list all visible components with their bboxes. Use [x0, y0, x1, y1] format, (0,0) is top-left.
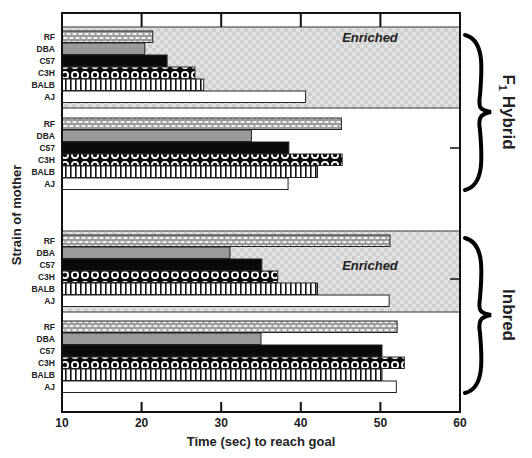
strain-label: C57: [39, 346, 55, 356]
bar-c3h: [62, 357, 404, 369]
bar-aj: [62, 381, 396, 393]
bar-c57: [62, 345, 382, 357]
bar-chart: RFDBAC57C3HBALBAJRFDBAC57C3HBALBAJRFDBAC…: [0, 0, 532, 458]
strain-label: BALB: [31, 370, 55, 380]
strain-label: RF: [44, 32, 55, 42]
bar-rf: [62, 321, 397, 333]
x-tick-label: 50: [374, 416, 388, 430]
strain-label: C3H: [38, 68, 55, 78]
bar-c3h: [62, 67, 195, 79]
strain-label: C3H: [38, 272, 55, 282]
x-tick-label: 10: [55, 416, 69, 430]
bar-rf: [62, 31, 153, 43]
brace-icon: [465, 35, 491, 190]
strain-label: AJ: [44, 382, 55, 392]
strain-label: C57: [39, 260, 55, 270]
strain-label: AJ: [44, 92, 55, 102]
strain-label: RF: [44, 236, 55, 246]
bar-aj: [62, 295, 389, 307]
bar-dba: [62, 247, 230, 259]
x-axis: 102030405060: [55, 402, 467, 430]
bar-aj: [62, 91, 306, 103]
f1-hybrid-label: F1 Hybrid: [497, 74, 518, 149]
bar-c3h: [62, 271, 278, 283]
strain-label: BALB: [31, 284, 55, 294]
bar-balb: [62, 283, 318, 295]
x-tick-label: 40: [294, 416, 308, 430]
bar-dba: [62, 43, 145, 55]
strain-label: RF: [44, 119, 55, 129]
bar-balb: [62, 79, 204, 91]
enriched-label-f1: Enriched: [342, 30, 399, 45]
strain-label: DBA: [37, 334, 55, 344]
strain-label: C57: [39, 143, 55, 153]
inbred-bracket: Inbred: [465, 238, 518, 393]
bar-balb: [62, 166, 318, 178]
bar-c57: [62, 259, 262, 271]
strain-label: BALB: [31, 80, 55, 90]
brace-icon: [465, 238, 491, 393]
bar-balb: [62, 369, 382, 381]
strain-label: DBA: [37, 248, 55, 258]
strain-label: AJ: [44, 179, 55, 189]
strain-label: C57: [39, 56, 55, 66]
f1-hybrid-bracket: F1 Hybrid: [465, 35, 518, 190]
bar-rf: [62, 118, 341, 130]
strain-label: C3H: [38, 358, 55, 368]
x-tick-label: 20: [135, 416, 149, 430]
bar-c57: [62, 55, 167, 67]
bar-dba: [62, 130, 251, 142]
x-tick-label: 30: [215, 416, 229, 430]
bar-dba: [62, 333, 261, 345]
strain-label: C3H: [38, 155, 55, 165]
x-axis-label: Time (sec) to reach goal: [187, 434, 336, 449]
strain-label: BALB: [31, 167, 55, 177]
strain-labels: RFDBAC57C3HBALBAJRFDBAC57C3HBALBAJRFDBAC…: [31, 32, 55, 392]
bar-aj: [62, 178, 288, 190]
bar-c3h: [62, 154, 342, 166]
strain-label: DBA: [37, 131, 55, 141]
bar-c57: [62, 142, 289, 154]
inbred-label: Inbred: [499, 289, 518, 341]
bar-rf: [62, 235, 390, 247]
y-axis-label: Strain of mother: [9, 165, 24, 265]
strain-label: AJ: [44, 296, 55, 306]
x-tick-label: 60: [453, 416, 467, 430]
strain-label: RF: [44, 322, 55, 332]
strain-label: DBA: [37, 44, 55, 54]
enriched-label-inbred: Enriched: [342, 258, 399, 273]
